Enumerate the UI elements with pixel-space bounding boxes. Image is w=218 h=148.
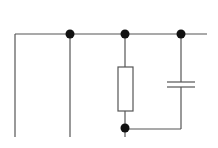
junction-node-1 bbox=[66, 30, 75, 39]
junction-node-3 bbox=[177, 30, 186, 39]
resistor bbox=[118, 67, 133, 111]
circuit-diagram bbox=[0, 0, 218, 148]
junction-node-2 bbox=[121, 30, 130, 39]
junction-node-4 bbox=[121, 124, 130, 133]
